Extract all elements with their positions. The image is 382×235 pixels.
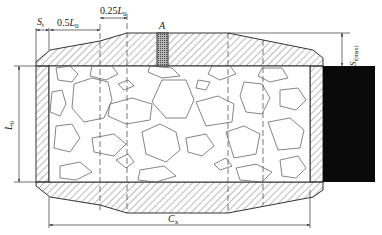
a-label: A	[158, 20, 166, 31]
right-wall	[310, 66, 323, 182]
bottom-wall	[36, 182, 323, 213]
loading-block	[323, 66, 375, 182]
l0-label: L0	[3, 120, 16, 131]
quarter-l0-label: 0.25L0	[100, 5, 127, 18]
top-wall	[36, 33, 323, 66]
inner-chamber	[49, 66, 310, 182]
st-max-label: St(max)	[348, 46, 360, 67]
cx-label: Cx	[168, 213, 179, 226]
left-wall	[36, 66, 49, 182]
sample-region-a	[157, 33, 168, 66]
half-l0-label: 0.5L0	[57, 17, 79, 30]
cross-section-diagram: St 0.5L0 0.25L0 A L0 St(max) Cx	[0, 0, 382, 235]
st-label: St	[37, 16, 44, 29]
